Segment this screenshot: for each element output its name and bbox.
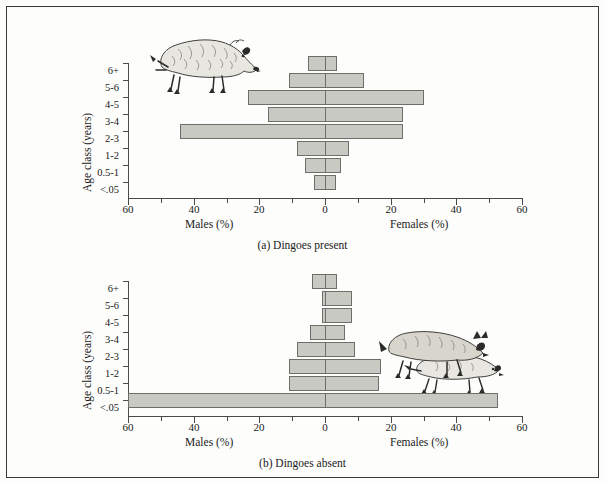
panel-a-bar-male-3-4 [268,107,326,122]
panel-a-males-axis-title: Males (%) [185,218,233,230]
panel-b-ylabel-lt.05: <.05 [69,403,119,413]
panel-a-bar-male-2-3 [180,124,326,139]
panel-a-females-axis-title: Females (%) [390,218,448,230]
panel-b-bar-female-5-6 [325,291,352,306]
panel-a-bar-male-6plus [308,56,326,71]
panel-b-bar-male-6plus [312,274,326,289]
panel-a-bar-female-4-5 [325,90,424,105]
panel-b-bar-male-3-4 [310,325,326,340]
panel-a-ylabel-5-6: 5-6 [69,83,119,93]
panel-a-bar-female-0.5-1 [325,158,341,173]
panel-b-ylabel-3-4: 3-4 [69,335,119,345]
panel-a-xtick-0: 0 [310,203,340,215]
panel-b-xtick-20L: 20 [244,421,274,433]
panel-b-ylabel-6plus: 6+ [69,284,119,294]
panel-a-caption: (a) Dingoes present [7,239,598,251]
panel-a-bar-male-0.5-1 [305,158,326,173]
panel-a-xtick-20L: 20 [244,203,274,215]
panel-a-ylabel-6plus: 6+ [69,66,119,76]
panel-b-caption: (b) Dingoes absent [7,457,598,469]
panel-a-ylabel-0.5-1: 0.5-1 [65,168,119,178]
panel-a-bar-female-lt.05 [325,175,336,190]
panel-a-bar-male-1-2 [297,141,326,156]
panel-b-bar-female-2-3 [325,342,355,357]
figure-frame: Age class (years) 6+ 5-6 4-5 3-4 2-3 1-2… [6,6,599,478]
figure-page: Age class (years) 6+ 5-6 4-5 3-4 2-3 1-2… [0,0,605,484]
panel-a-bar-female-6plus [325,56,337,71]
panel-b-ylabel-2-3: 2-3 [69,352,119,362]
panel-a-bar-male-5-6 [289,73,326,88]
panel-a-bar-female-2-3 [325,124,403,139]
panel-a-ylabel-2-3: 2-3 [69,134,119,144]
panel-a-ylabel-1-2: 1-2 [69,151,119,161]
panel-b-xtick-0: 0 [310,421,340,433]
panel-b-ylabel-0.5-1: 0.5-1 [65,386,119,396]
panel-b-ylabel-5-6: 5-6 [69,301,119,311]
panel-a-xtick-40R: 40 [441,203,471,215]
dingo-attacking-boar-illustration [377,323,505,395]
panel-b-bar-female-6plus [325,274,337,289]
panel-b-bar-female-1-2 [325,359,381,374]
panel-a-xtick-20R: 20 [376,203,406,215]
panel-b-bar-male-lt.05 [128,393,326,408]
panel-b-ylabel-4-5: 4-5 [69,318,119,328]
panel-b-bar-female-4-5 [325,308,352,323]
panel-a-ylabel-3-4: 3-4 [69,117,119,127]
panel-a-xtick-60R: 60 [507,203,537,215]
panel-b-bar-female-3-4 [325,325,345,340]
panel-b-xtick-40L: 40 [179,421,209,433]
panel-a-bar-female-3-4 [325,107,403,122]
panel-b-xtick-40R: 40 [441,421,471,433]
wild-boar-illustration [144,23,264,95]
panel-b-bar-male-0.5-1 [289,376,326,391]
panel-a-ylabel-4-5: 4-5 [69,100,119,110]
panel-b-females-axis-title: Females (%) [390,436,448,448]
panel-a-ylabel-lt.05: <.05 [69,185,119,195]
panel-b-ylabel-1-2: 1-2 [69,369,119,379]
panel-a-bar-male-4-5 [248,90,326,105]
panel-b-bar-female-lt.05 [325,393,498,408]
panel-b-xtick-20R: 20 [376,421,406,433]
panel-b-males-axis-title: Males (%) [185,436,233,448]
panel-a-xtick-60L: 60 [113,203,143,215]
panel-b-xtick-60R: 60 [507,421,537,433]
panel-b-xtick-60L: 60 [113,421,143,433]
panel-a-bar-female-1-2 [325,141,349,156]
panel-a-xtick-40L: 40 [179,203,209,215]
panel-b-bar-male-1-2 [289,359,326,374]
panel-a-bar-female-5-6 [325,73,364,88]
panel-b-bar-male-2-3 [297,342,326,357]
panel-b-bar-female-0.5-1 [325,376,379,391]
